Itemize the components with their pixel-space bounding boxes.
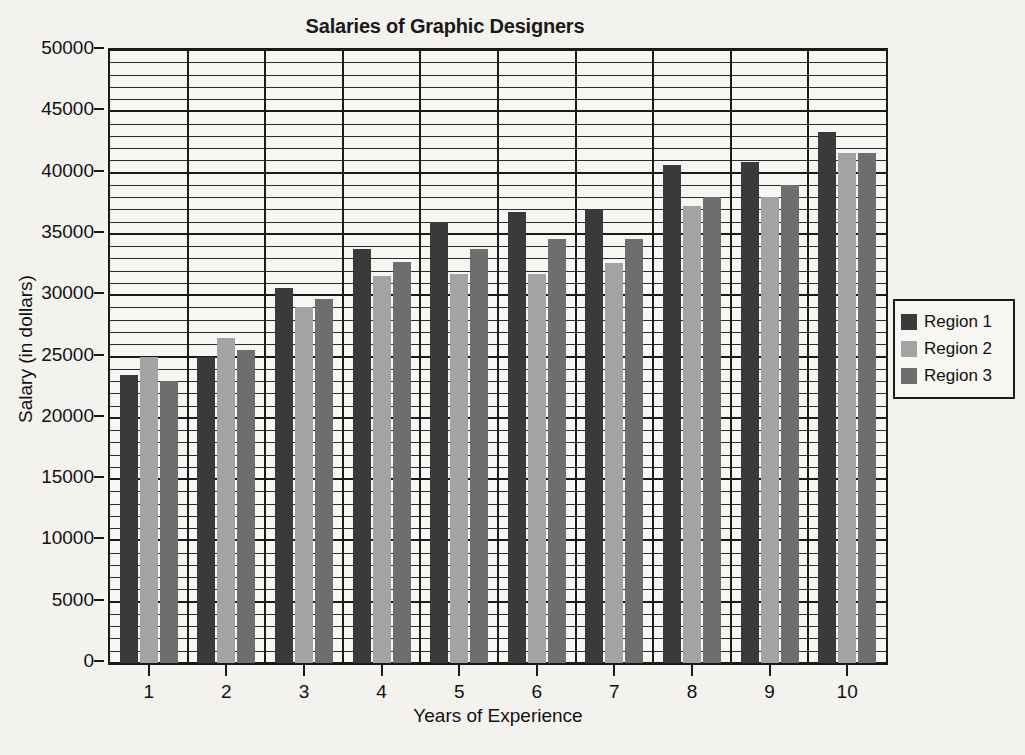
legend-label: Region 3 — [924, 366, 992, 386]
bar — [430, 222, 448, 663]
bar — [393, 262, 411, 663]
plot-area — [108, 48, 888, 665]
y-tick-mark — [94, 476, 104, 478]
bar — [140, 357, 158, 664]
x-axis-title: Years of Experience — [108, 705, 888, 727]
bar — [761, 197, 779, 663]
x-tick-label: 6 — [532, 681, 543, 703]
x-tick-mark — [225, 665, 227, 676]
y-tick-mark — [94, 415, 104, 417]
y-tick-mark — [94, 354, 104, 356]
x-tick-label: 4 — [376, 681, 387, 703]
y-tick-mark — [94, 108, 104, 110]
bar-series-group — [110, 50, 886, 663]
bar — [858, 153, 876, 663]
bar — [160, 381, 178, 663]
y-tick-label: 20000 — [41, 405, 94, 427]
y-tick-label: 40000 — [41, 160, 94, 182]
bar — [741, 162, 759, 663]
x-tick-mark — [691, 665, 693, 676]
y-axis: 0500010000150002000025000300003500040000… — [0, 48, 104, 665]
chart-title: Salaries of Graphic Designers — [0, 15, 890, 38]
x-tick-label: 7 — [609, 681, 620, 703]
x-tick-label: 1 — [144, 681, 155, 703]
legend-item[interactable]: Region 2 — [901, 335, 1007, 362]
bar — [237, 350, 255, 663]
bar — [605, 263, 623, 663]
bar — [703, 197, 721, 663]
x-tick-label: 5 — [454, 681, 465, 703]
legend-swatch-icon — [901, 341, 917, 357]
y-tick-mark — [94, 599, 104, 601]
legend-item[interactable]: Region 3 — [901, 362, 1007, 389]
bar — [838, 153, 856, 663]
bar — [373, 276, 391, 663]
y-tick-label: 0 — [83, 650, 94, 672]
x-tick-mark — [846, 665, 848, 676]
bar — [663, 165, 681, 663]
x-tick-label: 3 — [299, 681, 310, 703]
bar — [353, 249, 371, 663]
bar — [450, 274, 468, 663]
bar — [275, 288, 293, 663]
x-tick-label: 10 — [837, 681, 858, 703]
bar — [683, 206, 701, 663]
legend-label: Region 1 — [924, 312, 992, 332]
y-tick-mark — [94, 170, 104, 172]
x-tick-mark — [536, 665, 538, 676]
legend-swatch-icon — [901, 314, 917, 330]
bar — [470, 249, 488, 663]
legend-item[interactable]: Region 1 — [901, 308, 1007, 335]
bar — [508, 212, 526, 663]
bar — [315, 299, 333, 663]
y-tick-label: 15000 — [41, 466, 94, 488]
bar — [528, 274, 546, 663]
x-tick-mark — [303, 665, 305, 676]
legend-swatch-icon — [901, 368, 917, 384]
y-tick-label: 30000 — [41, 282, 94, 304]
y-tick-label: 5000 — [52, 589, 94, 611]
bar — [197, 357, 215, 664]
chart-canvas: Salaries of Graphic Designers 0500010000… — [0, 0, 1025, 755]
x-tick-mark — [148, 665, 150, 676]
x-tick-label: 9 — [764, 681, 775, 703]
bar — [120, 375, 138, 663]
y-tick-label: 35000 — [41, 221, 94, 243]
x-tick-mark — [458, 665, 460, 676]
legend-label: Region 2 — [924, 339, 992, 359]
y-tick-mark — [94, 231, 104, 233]
bar — [295, 307, 313, 663]
y-axis-title: Salary (in dollars) — [15, 169, 37, 529]
bar — [585, 209, 603, 663]
bar — [625, 239, 643, 663]
x-tick-mark — [381, 665, 383, 676]
x-tick-label: 2 — [221, 681, 232, 703]
x-tick-mark — [613, 665, 615, 676]
bar — [781, 185, 799, 663]
x-tick-label: 8 — [687, 681, 698, 703]
x-tick-mark — [769, 665, 771, 676]
y-tick-mark — [94, 660, 104, 662]
y-tick-label: 50000 — [41, 37, 94, 59]
bar — [818, 132, 836, 663]
y-tick-mark — [94, 292, 104, 294]
y-tick-label: 25000 — [41, 344, 94, 366]
y-tick-mark — [94, 537, 104, 539]
y-tick-label: 10000 — [41, 527, 94, 549]
legend: Region 1Region 2Region 3 — [893, 299, 1015, 399]
bar — [217, 338, 235, 663]
y-tick-mark — [94, 47, 104, 49]
bar — [548, 239, 566, 663]
y-tick-label: 45000 — [41, 98, 94, 120]
